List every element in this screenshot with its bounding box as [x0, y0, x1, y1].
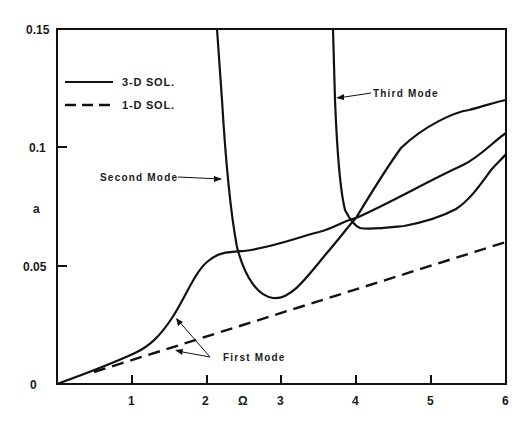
y-tick-label-0: 0	[30, 378, 37, 392]
y-tick-label-0.05: 0.05	[23, 260, 47, 274]
x-tick-label-1: 1	[128, 394, 135, 408]
first-mode-arrowhead-1d	[175, 349, 183, 355]
y-tick-label-0.1: 0.1	[29, 141, 46, 155]
chart-canvas: 0 0.05 0.1 0.15 a 1 2 Ω 3 4 5 6 3-D SOL.…	[0, 0, 532, 423]
annotation-first-mode: First Mode	[223, 352, 286, 363]
annotation-third-mode: Third Mode	[373, 88, 439, 99]
series-3d-first-mode	[57, 133, 506, 384]
x-tick-label-3: 3	[277, 394, 284, 408]
series-3d-third-mode	[333, 29, 506, 229]
x-axis-label: Ω	[238, 394, 248, 408]
x-tick-label-2: 2	[202, 394, 209, 408]
third-mode-arrowhead	[336, 94, 344, 100]
y-axis-label: a	[33, 202, 40, 216]
x-tick-label-4: 4	[352, 394, 359, 408]
second-mode-arrowhead	[214, 176, 222, 182]
series-3d-second-mode	[217, 29, 506, 298]
annotation-second-mode: Second Mode	[100, 172, 178, 183]
legend-1d-label: 1-D SOL.	[122, 99, 175, 111]
y-tick-label-0.15: 0.15	[26, 23, 50, 37]
x-tick-label-6: 6	[502, 394, 509, 408]
x-tick-label-5: 5	[427, 394, 434, 408]
series-1d-first-mode	[94, 242, 506, 372]
legend-3d-label: 3-D SOL.	[122, 76, 175, 88]
